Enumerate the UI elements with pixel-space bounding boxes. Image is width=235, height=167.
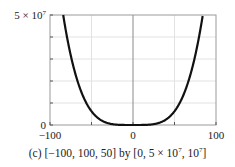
x-tick-label-max: 100 — [208, 129, 225, 141]
y-tick-label-top: 5 × 107 — [14, 9, 46, 21]
chart-caption: (c) [−100, 100, 50] by [0, 5 × 107, 107] — [0, 146, 235, 159]
x-tick-label-min: −100 — [39, 129, 62, 141]
x-tick-label-zero: 0 — [130, 129, 136, 141]
plot-area: 5 × 107 0 −100 0 100 — [0, 0, 235, 145]
